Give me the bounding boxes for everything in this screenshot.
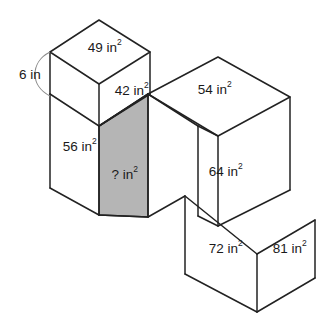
label-64-in2: 64 in2 <box>182 161 261 178</box>
label-49-value: 49 <box>88 40 103 55</box>
label-56-value: 56 <box>63 139 78 154</box>
label-49-exponent: 2 <box>117 37 122 47</box>
label-unknown-in2: ? in2 <box>85 164 157 181</box>
label-54-value: 54 <box>198 82 214 97</box>
label-56-unit: in <box>82 139 93 154</box>
label-54-in2: 54 in2 <box>171 79 250 96</box>
label-72-unit: in <box>228 241 239 256</box>
label-49-in2: 49 in2 <box>61 37 140 54</box>
label-81-exponent: 2 <box>302 238 307 248</box>
geometry-figure: 6 in 49 in2 42 in2 54 in2 56 in2 ? in2 6… <box>0 0 331 331</box>
dimension-label-6in: 6 in <box>19 67 41 82</box>
face-left-bottom-right-cube <box>185 216 257 312</box>
label-56-exponent: 2 <box>92 136 97 146</box>
label-81-unit: in <box>292 241 303 256</box>
label-unknown-value: ? <box>111 167 119 182</box>
face-right-bottom-right-cube <box>257 220 315 312</box>
label-54-unit: in <box>217 82 228 97</box>
label-64-unit: in <box>228 164 239 179</box>
label-81-in2: 81 in2 <box>246 238 325 255</box>
label-64-value: 64 <box>209 164 225 179</box>
label-72-value: 72 <box>209 241 224 256</box>
label-unknown-exponent: 2 <box>133 164 138 174</box>
label-unknown-unit: in <box>123 167 134 182</box>
label-81-value: 81 <box>273 241 288 256</box>
isometric-cubes-diagram: 6 in 49 in2 42 in2 54 in2 56 in2 ? in2 6… <box>0 0 331 331</box>
label-56-in2: 56 in2 <box>36 136 115 153</box>
label-42-exponent: 2 <box>144 80 149 90</box>
label-54-exponent: 2 <box>227 79 232 89</box>
label-72-exponent: 2 <box>238 238 243 248</box>
label-49-unit: in <box>107 40 118 55</box>
label-64-exponent: 2 <box>238 161 243 171</box>
label-42-in2: 42 in2 <box>88 80 167 97</box>
label-42-value: 42 <box>115 83 130 98</box>
label-42-unit: in <box>134 83 145 98</box>
